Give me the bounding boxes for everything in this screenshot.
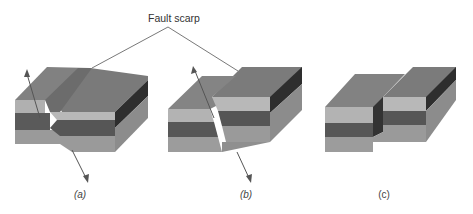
fault-scarp-label: Fault scarp xyxy=(148,12,200,24)
caption-c: (c) xyxy=(378,189,390,200)
panel-a-block xyxy=(15,67,148,152)
leader-line-a xyxy=(92,27,168,68)
leader-line-b xyxy=(168,27,238,71)
panel-b-block xyxy=(168,67,302,152)
panel-c-block xyxy=(325,67,456,152)
caption-a: (a) xyxy=(74,189,86,200)
caption-b: (b) xyxy=(240,189,252,200)
fault-diagram: Fault scarp (a) xyxy=(0,0,473,214)
